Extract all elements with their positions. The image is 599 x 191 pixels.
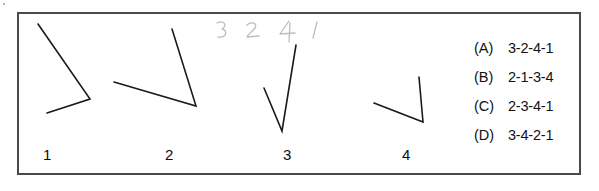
answer-option-a[interactable]: (A) 3-2-4-1: [474, 40, 578, 69]
figure-label-3: 3: [283, 147, 291, 162]
answer-option-d[interactable]: (D) 3-4-2-1: [474, 127, 578, 156]
answer-option-b-letter: (B): [474, 69, 508, 85]
figure-label-1: 1: [43, 147, 51, 162]
answer-option-a-letter: (A): [474, 40, 508, 56]
answer-option-d-text: 3-4-2-1: [508, 127, 553, 143]
figure-label-2: 2: [165, 147, 173, 162]
answer-option-c-text: 2-3-4-1: [508, 98, 553, 114]
answer-option-c-letter: (C): [474, 98, 508, 114]
answer-option-b[interactable]: (B) 2-1-3-4: [474, 69, 578, 98]
scan-speck: [3, 3, 5, 5]
page-canvas: 1 2 3 4 (A) 3-2-4-1 (B) 2-1-3-4 (C) 2-3-…: [0, 0, 599, 191]
figure-label-4: 4: [402, 147, 410, 162]
answer-option-c[interactable]: (C) 2-3-4-1: [474, 98, 578, 127]
answer-option-a-text: 3-2-4-1: [508, 40, 553, 56]
answer-option-b-text: 2-1-3-4: [508, 69, 553, 85]
answer-option-d-letter: (D): [474, 127, 508, 143]
answer-options-list: (A) 3-2-4-1 (B) 2-1-3-4 (C) 2-3-4-1 (D) …: [474, 40, 578, 156]
